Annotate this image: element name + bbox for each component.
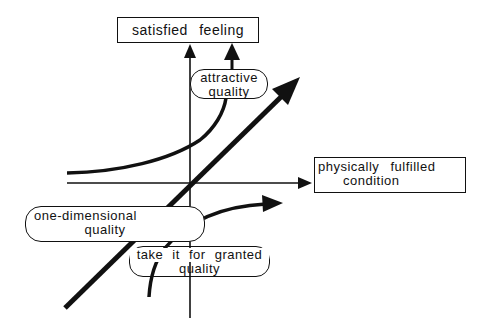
satisfied-feeling-text: satisfied feeling — [132, 22, 244, 38]
one-dimensional-line1: one-dimensional — [26, 209, 204, 223]
take-for-granted-quality-label: take it for granted quality — [129, 246, 270, 277]
attractive-quality-line2: quality — [191, 85, 267, 99]
take-for-granted-line2: quality — [130, 262, 269, 276]
take-for-granted-arrowhead — [262, 195, 283, 212]
physically-fulfilled-line1: physically fulfilled — [318, 160, 465, 174]
x-axis-arrowhead — [298, 177, 312, 189]
attractive-arrowhead — [224, 43, 240, 60]
one-dimensional-line2: quality — [26, 223, 204, 237]
attractive-quality-label: attractive quality — [190, 69, 268, 99]
take-for-granted-line1: take it for granted — [130, 248, 269, 262]
physically-fulfilled-line2: condition — [318, 174, 465, 188]
y-axis-arrowhead — [184, 44, 196, 58]
x-axis-label-physically-fulfilled: physically fulfilled condition — [314, 157, 466, 193]
attractive-quality-line1: attractive — [191, 71, 267, 85]
attractive-quality-curve — [67, 98, 226, 173]
one-dimensional-quality-label: one-dimensional quality — [25, 206, 205, 242]
y-axis-label-satisfied-feeling: satisfied feeling — [117, 17, 259, 43]
